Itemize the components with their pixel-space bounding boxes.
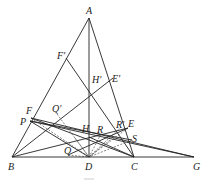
diagram-canvas: A F′ H′ E′ F Q′ P H R R′ E S Q B D C G (0, 0, 207, 181)
label-e: E (127, 118, 134, 129)
label-p: P (19, 116, 26, 127)
label-e-prime: E′ (111, 73, 121, 84)
label-h-prime: H′ (91, 74, 102, 85)
geometry-diagram: A F′ H′ E′ F Q′ P H R R′ E S Q B D C G (0, 0, 207, 181)
line-be-prime (12, 78, 113, 157)
label-h: H (81, 123, 90, 134)
label-q-prime: Q′ (52, 103, 62, 114)
label-f: F (25, 105, 33, 116)
label-r-prime: R′ (115, 119, 125, 130)
label-d: D (84, 161, 93, 172)
line-fg (31, 118, 194, 157)
label-a: A (85, 5, 93, 16)
label-c: C (131, 161, 138, 172)
dashed-fd (31, 118, 89, 157)
label-f-prime: F′ (56, 50, 66, 61)
dashed-ray-2 (89, 140, 110, 157)
label-q: Q (64, 145, 72, 156)
label-b: B (8, 161, 14, 172)
label-r: R (96, 124, 103, 135)
label-g: G (193, 161, 200, 172)
label-s: S (132, 133, 137, 144)
side-ab (12, 18, 89, 157)
labels-group: A F′ H′ E′ F Q′ P H R R′ E S Q B D C G (8, 5, 200, 172)
line-pg (30, 121, 194, 157)
